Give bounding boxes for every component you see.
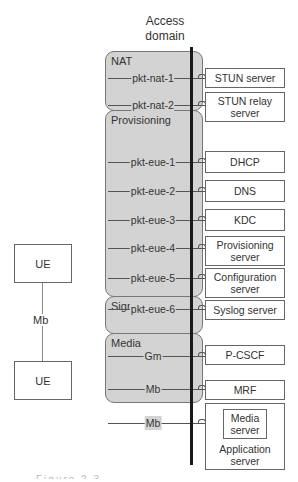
server-application: Media server Application server bbox=[205, 403, 285, 470]
server-syslog: Syslog server bbox=[205, 300, 285, 320]
connector bbox=[195, 191, 205, 192]
interface-label: Mb bbox=[145, 382, 162, 396]
server-label: DHCP bbox=[230, 156, 260, 168]
server-configuration: Configurationserver bbox=[205, 268, 285, 298]
server-label: Media bbox=[231, 412, 260, 424]
server-label: KDC bbox=[234, 214, 256, 226]
group-label: Provisioning bbox=[111, 114, 171, 126]
interface-pkt-eue-5: pkt-eue-5 bbox=[108, 271, 198, 285]
server-label: MRF bbox=[234, 384, 257, 396]
figure-caption: Figure 2.3 ... bbox=[36, 474, 120, 482]
interface-label: pkt-eue-5 bbox=[130, 271, 176, 285]
interface-pkt-nat-1: pkt-nat-1 bbox=[108, 71, 198, 85]
server-provisioning: Provisioningserver bbox=[205, 236, 285, 266]
interface-pkt-eue-6: pkt-eue-6 bbox=[108, 302, 198, 316]
title-line-2: domain bbox=[130, 29, 200, 44]
server-label: P-CSCF bbox=[225, 349, 264, 361]
server-dhcp: DHCP bbox=[205, 151, 285, 173]
server-label: STUN server bbox=[215, 72, 276, 84]
interface-gm: Gm bbox=[108, 349, 198, 363]
ue-label: UE bbox=[35, 258, 50, 270]
interface-pkt-eue-4: pkt-eue-4 bbox=[108, 241, 198, 255]
server-stun-relay: STUN relayserver bbox=[205, 92, 285, 122]
interface-mb-mrf: Mb bbox=[108, 382, 198, 396]
server-label: DNS bbox=[234, 185, 256, 197]
server-dns: DNS bbox=[205, 180, 285, 202]
server-label: STUN relay bbox=[218, 95, 272, 107]
connector bbox=[195, 220, 205, 221]
connector bbox=[195, 356, 205, 357]
server-label: server bbox=[230, 107, 259, 119]
interface-pkt-eue-3: pkt-eue-3 bbox=[108, 213, 198, 227]
ue-bottom: UE bbox=[14, 361, 72, 400]
server-label: Syslog server bbox=[213, 304, 277, 316]
title-line-1: Access bbox=[130, 14, 200, 29]
connector bbox=[195, 278, 205, 279]
server-label: server bbox=[230, 283, 259, 295]
server-label: server bbox=[230, 251, 259, 263]
server-p-cscf: P-CSCF bbox=[205, 345, 285, 365]
ue-link-label: Mb bbox=[33, 314, 48, 326]
server-label: Provisioning bbox=[216, 239, 273, 251]
interface-pkt-eue-1: pkt-eue-1 bbox=[108, 155, 198, 169]
connector bbox=[195, 78, 205, 79]
interface-pkt-eue-2: pkt-eue-2 bbox=[108, 184, 198, 198]
interface-label: pkt-nat-1 bbox=[131, 71, 174, 85]
server-label: server bbox=[230, 424, 259, 436]
connector bbox=[195, 389, 205, 390]
connector bbox=[195, 423, 205, 424]
interface-label: pkt-nat-2 bbox=[131, 98, 174, 112]
connector bbox=[195, 162, 205, 163]
interface-label: pkt-eue-3 bbox=[130, 213, 176, 227]
access-domain-boundary bbox=[190, 47, 193, 465]
server-label: server bbox=[230, 455, 259, 467]
access-domain-title: Access domain bbox=[130, 14, 200, 44]
server-media: Media server bbox=[223, 409, 267, 439]
ue-label: UE bbox=[35, 375, 50, 387]
group-provisioning: Provisioning bbox=[105, 110, 203, 297]
group-label: NAT bbox=[111, 55, 132, 67]
ue-top: UE bbox=[14, 244, 72, 283]
group-label: Media bbox=[111, 337, 141, 349]
connector bbox=[195, 105, 205, 106]
interface-label: pkt-eue-2 bbox=[130, 184, 176, 198]
connector bbox=[195, 309, 205, 310]
connector bbox=[195, 248, 205, 249]
interface-pkt-nat-2: pkt-nat-2 bbox=[108, 98, 198, 112]
server-kdc: KDC bbox=[205, 209, 285, 231]
interface-label: Gm bbox=[144, 349, 163, 363]
interface-mb-media-server: Mb bbox=[108, 416, 198, 430]
interface-label: pkt-eue-4 bbox=[130, 241, 176, 255]
interface-label: pkt-eue-6 bbox=[130, 302, 176, 316]
server-label: Application bbox=[219, 443, 270, 455]
server-mrf: MRF bbox=[205, 380, 285, 400]
server-label: Configuration bbox=[214, 271, 276, 283]
server-stun: STUN server bbox=[205, 68, 285, 88]
interface-label: Mb bbox=[145, 416, 162, 430]
interface-label: pkt-eue-1 bbox=[130, 155, 176, 169]
